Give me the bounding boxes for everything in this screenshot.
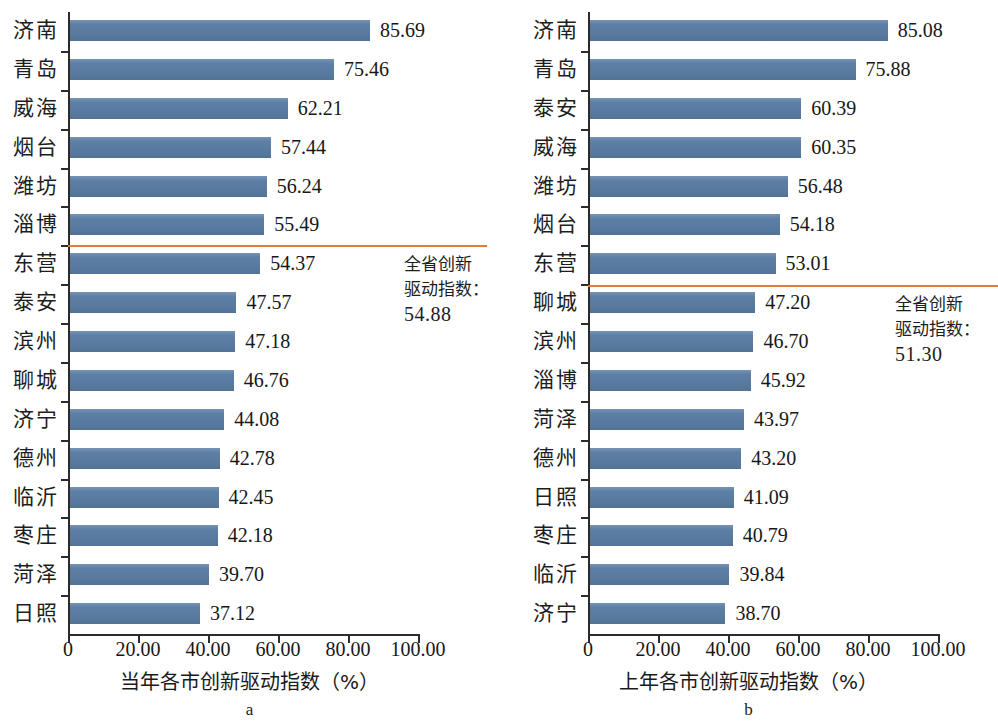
bar (590, 564, 729, 585)
category-label: 枣庄 (533, 519, 579, 551)
bar-value-label: 60.35 (811, 133, 856, 161)
bar-value-label: 53.01 (786, 249, 831, 277)
bar-value-label: 60.39 (811, 94, 856, 122)
category-label: 潍坊 (13, 170, 59, 202)
y-axis-tick (61, 51, 68, 53)
category-label: 青岛 (13, 53, 59, 85)
category-label: 烟台 (13, 131, 59, 163)
bar (590, 253, 776, 274)
bar-value-label: 38.70 (735, 599, 780, 627)
bar (70, 564, 209, 585)
category-label: 威海 (13, 92, 59, 124)
bar-value-label: 47.18 (245, 327, 290, 355)
x-axis-title-a: 当年各市创新驱动指数（%） (0, 668, 499, 696)
y-axis-tick (61, 517, 68, 519)
panel-a: 济南85.69青岛75.46威海62.21烟台57.44潍坊56.24淄博55.… (0, 0, 499, 725)
y-axis-tick (61, 556, 68, 558)
bar-row: 日照37.12 (68, 595, 418, 634)
bar-rows-b: 济南85.08青岛75.88泰安60.39威海60.35潍坊56.48烟台54.… (588, 12, 938, 634)
bar-value-label: 43.20 (751, 444, 796, 472)
category-label: 聊城 (533, 286, 579, 318)
bar-row: 济宁38.70 (588, 595, 938, 634)
y-axis-tick (581, 440, 588, 442)
category-label: 菏泽 (13, 558, 59, 590)
bar (590, 137, 801, 158)
bar-value-label: 47.57 (246, 288, 291, 316)
bar (70, 59, 334, 80)
bar-row: 烟台54.18 (588, 206, 938, 245)
bar (70, 137, 271, 158)
category-label: 威海 (533, 131, 579, 163)
bar-value-label: 57.44 (281, 133, 326, 161)
bar-row: 聊城46.76 (68, 362, 418, 401)
bar (70, 603, 200, 624)
bar-value-label: 75.46 (344, 55, 389, 83)
category-label: 济南 (533, 14, 579, 46)
bar (70, 253, 260, 274)
y-axis-tick (581, 206, 588, 208)
y-axis-tick (61, 245, 68, 247)
panel-b: 济南85.08青岛75.88泰安60.39威海60.35潍坊56.48烟台54.… (499, 0, 998, 725)
bar (590, 292, 755, 313)
bar (590, 603, 725, 624)
y-axis-tick (581, 323, 588, 325)
y-axis-tick (581, 362, 588, 364)
bar-row: 东营54.37 (68, 245, 418, 284)
category-label: 德州 (533, 442, 579, 474)
figure-two-panel-bar-charts: 济南85.69青岛75.46威海62.21烟台57.44潍坊56.24淄博55.… (0, 0, 998, 725)
category-label: 德州 (13, 442, 59, 474)
bar-value-label: 37.12 (210, 599, 255, 627)
bar-value-label: 62.21 (298, 94, 343, 122)
bar-row: 聊城47.20 (588, 284, 938, 323)
category-label: 东营 (533, 247, 579, 279)
bar (70, 370, 234, 391)
bar-value-label: 75.88 (866, 55, 911, 83)
category-label: 枣庄 (13, 519, 59, 551)
bar (590, 409, 744, 430)
bar (590, 487, 734, 508)
bar-value-label: 54.18 (790, 210, 835, 238)
y-axis-tick (581, 90, 588, 92)
bar-row: 滨州46.70 (588, 323, 938, 362)
category-label: 济南 (13, 14, 59, 46)
y-axis-tick (61, 362, 68, 364)
bar-value-label: 54.37 (270, 249, 315, 277)
bar (70, 525, 218, 546)
x-tick-label: 20.00 (116, 636, 161, 662)
category-label: 滨州 (13, 325, 59, 357)
bar-value-label: 85.08 (898, 16, 943, 44)
x-tick-label: 0 (63, 636, 73, 662)
bar (70, 487, 219, 508)
reference-annotation-a: 全省创新 驱动指数： 54.88 (404, 252, 489, 327)
bar-value-label: 47.20 (765, 288, 810, 316)
panel-letter-b: b (499, 700, 998, 720)
bar-value-label: 46.76 (244, 366, 289, 394)
category-label: 青岛 (533, 53, 579, 85)
bar-value-label: 55.49 (274, 210, 319, 238)
bar (590, 370, 751, 391)
reference-label-line1: 全省创新 (895, 292, 980, 317)
bar-value-label: 56.24 (277, 172, 322, 200)
bar-row: 青岛75.88 (588, 51, 938, 90)
bar-row: 日照41.09 (588, 479, 938, 518)
bar (70, 176, 267, 197)
x-tick-label: 20.00 (636, 636, 681, 662)
y-axis-tick (581, 556, 588, 558)
bar-value-label: 42.18 (228, 521, 273, 549)
reference-label-line2: 驱动指数： (895, 317, 980, 342)
bar-row: 青岛75.46 (68, 51, 418, 90)
y-axis-tick (61, 401, 68, 403)
bar-value-label: 39.84 (739, 560, 784, 588)
y-axis-tick (61, 479, 68, 481)
bar (590, 59, 856, 80)
bar (70, 331, 235, 352)
reference-annotation-b: 全省创新 驱动指数： 51.30 (895, 292, 980, 367)
reference-value: 51.30 (895, 342, 980, 367)
y-axis-tick (581, 284, 588, 286)
category-label: 淄博 (533, 364, 579, 396)
bar-value-label: 42.78 (230, 444, 275, 472)
bar (70, 292, 236, 313)
bar-value-label: 42.45 (229, 483, 274, 511)
bar-value-label: 39.70 (219, 560, 264, 588)
bar-row: 淄博45.92 (588, 362, 938, 401)
